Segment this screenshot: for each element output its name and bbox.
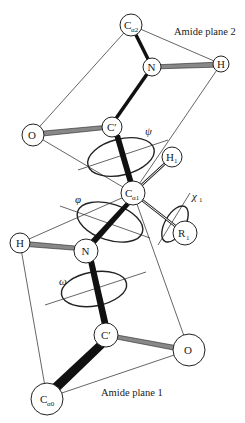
svg-text:C′: C′ <box>101 329 111 341</box>
svg-text:1: 1 <box>199 196 203 204</box>
psi-label: ψ <box>145 125 152 137</box>
svg-text:χ: χ <box>191 190 198 202</box>
svg-text:O: O <box>28 129 36 141</box>
svg-text:O: O <box>184 344 192 356</box>
atom-o-bottom: O <box>173 334 205 366</box>
svg-text:C′: C′ <box>107 121 117 133</box>
chi1-label: χ 1 <box>191 190 203 204</box>
svg-text:H: H <box>217 58 225 70</box>
atom-h-top: H <box>213 56 229 72</box>
svg-text:N: N <box>148 61 156 73</box>
peptide-diagram: C α2 N H C′ O H 1 C α1 R 1 H N C′ <box>0 0 245 423</box>
svg-text:α2: α2 <box>131 26 139 34</box>
phi-label: φ <box>75 193 81 205</box>
svg-text:1: 1 <box>186 234 190 242</box>
omega-label: ω <box>59 275 67 287</box>
svg-text:H: H <box>166 151 174 163</box>
svg-text:α0: α0 <box>47 400 55 408</box>
atom-h1: H 1 <box>162 147 182 167</box>
atom-c-prime-bottom: C′ <box>94 323 118 347</box>
amide-plane-1-label: Amide plane 1 <box>101 387 163 398</box>
svg-text:R: R <box>178 227 186 239</box>
atom-o-top: O <box>22 124 44 146</box>
atom-ca0: C α0 <box>31 383 63 415</box>
amide-plane-2-label: Amide plane 2 <box>174 26 236 37</box>
side-bonds <box>20 62 221 353</box>
svg-text:H: H <box>16 237 24 249</box>
svg-text:1: 1 <box>174 157 178 165</box>
svg-text:N: N <box>82 245 90 257</box>
atom-r1: R 1 <box>173 221 197 245</box>
atom-n-mid: N <box>74 239 98 263</box>
atom-ca1: C α1 <box>121 181 145 205</box>
atom-ca2: C α2 <box>120 14 142 36</box>
atom-h-mid: H <box>10 233 30 253</box>
svg-text:α1: α1 <box>132 194 140 202</box>
atom-n-top: N <box>143 58 161 76</box>
atom-c-prime-top: C′ <box>102 117 122 137</box>
